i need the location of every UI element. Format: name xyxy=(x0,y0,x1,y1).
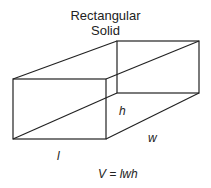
rectangular-solid-diagram: Rectangular Solid h w l V = lwh xyxy=(0,0,211,188)
width-label: w xyxy=(148,131,157,145)
solid-drawing xyxy=(0,0,211,188)
back-face xyxy=(117,41,199,93)
edge-top-right xyxy=(106,41,199,79)
volume-formula: V = lwh xyxy=(98,167,138,181)
front-face xyxy=(13,79,106,139)
edge-bottom-left xyxy=(13,93,117,139)
length-label: l xyxy=(57,149,60,163)
edge-top-left xyxy=(13,41,117,79)
height-label: h xyxy=(119,104,126,118)
